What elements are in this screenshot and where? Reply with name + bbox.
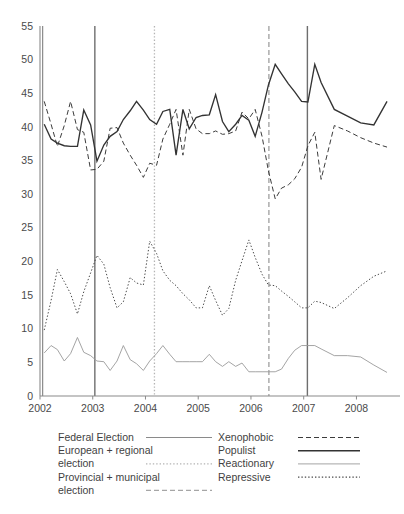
y-axis-tick-label: 55 [21,20,33,32]
y-axis-tick-label: 35 [21,154,33,166]
legend-label-left: election [58,457,94,469]
x-axis-tick-label: 2005 [187,402,211,414]
multi-series-line-chart: 0510152025303540455055 20022003200420052… [0,0,404,514]
legend-label-left: European + regional [58,444,153,456]
chart-figure: 0510152025303540455055 20022003200420052… [0,0,404,514]
legend-label-right: Populist [218,444,255,456]
y-axis-tick-label: 20 [21,255,33,267]
y-axis-tick-label: 15 [21,289,33,301]
legend-label-left: Federal Election [58,431,134,443]
legend-label-right: Repressive [218,471,271,483]
legend-label-left: election [58,484,94,496]
x-axis-tick-label: 2008 [345,402,369,414]
y-axis-tick-label: 45 [21,87,33,99]
legend-label-right: Xenophobic [218,431,273,443]
x-axis-tick-label: 2006 [239,402,263,414]
legend-label-right: Reactionary [218,457,275,469]
x-axis-tick-label: 2007 [292,402,316,414]
y-axis-tick-label: 40 [21,121,33,133]
x-axis-tick-label: 2004 [134,402,158,414]
y-axis-tick-label: 5 [27,356,33,368]
y-axis-tick-label: 0 [27,390,33,402]
y-axis-tick-label: 25 [21,221,33,233]
y-axis-tick-label: 30 [21,188,33,200]
y-axis-tick-label: 50 [21,53,33,65]
y-axis-tick-label: 10 [21,322,33,334]
legend-label-left: Provincial + municipal [58,471,160,483]
x-axis-tick-label: 2003 [81,402,105,414]
x-axis-tick-label: 2002 [28,402,52,414]
